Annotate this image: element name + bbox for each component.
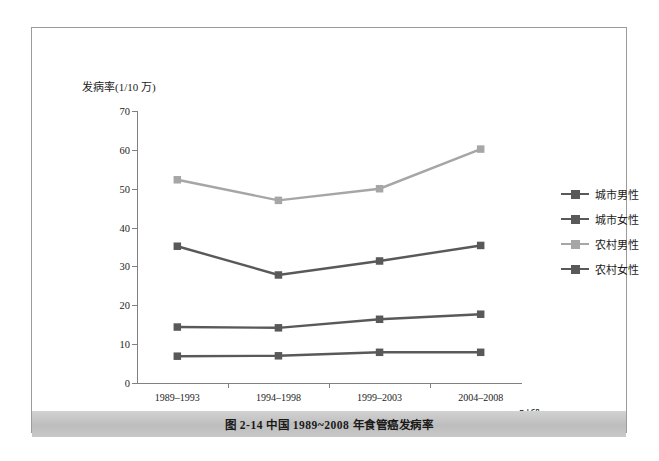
y-tick-label: 70 xyxy=(120,106,131,117)
legend-label: 农村女性 xyxy=(595,261,639,277)
y-axis-title: 发病率(1/10 万) xyxy=(82,78,156,94)
legend-item-0[interactable]: 城市男性 xyxy=(561,181,657,206)
plot-area: 010203040506070 1989–19931994–19981999–2… xyxy=(137,111,521,383)
data-point-marker xyxy=(376,316,384,324)
series-line xyxy=(177,245,480,275)
legend-item-1[interactable]: 城市女性 xyxy=(561,206,657,231)
data-point-marker xyxy=(376,257,384,265)
data-point-marker xyxy=(275,352,283,360)
y-tick-label: 60 xyxy=(120,144,131,155)
series-line xyxy=(177,352,480,356)
x-tick-label: 1999–2003 xyxy=(357,392,402,403)
data-point-marker xyxy=(275,271,283,279)
y-tick-label: 50 xyxy=(120,183,131,194)
x-tick-label: 1994–1998 xyxy=(256,392,301,403)
legend-label: 城市女性 xyxy=(595,211,639,227)
data-point-marker xyxy=(174,323,182,331)
figure-caption: 图 2-14 中国 1989~2008 年食管癌发病率 xyxy=(225,416,433,432)
data-point-marker xyxy=(477,145,485,153)
series-line xyxy=(177,314,480,328)
data-point-marker xyxy=(376,185,384,193)
data-point-marker xyxy=(275,197,283,205)
figure-frame: 发病率(1/10 万) 时段 010203040506070 1989–1993… xyxy=(31,27,627,433)
data-point-marker xyxy=(275,324,283,332)
legend-label: 城市男性 xyxy=(595,186,639,202)
y-tick-label: 0 xyxy=(125,378,130,389)
figure-caption-bar: 图 2-14 中国 1989~2008 年食管癌发病率 xyxy=(32,411,626,437)
legend-swatch-icon xyxy=(561,188,589,200)
x-tick xyxy=(430,383,431,388)
legend-item-3[interactable]: 农村女性 xyxy=(561,256,657,281)
legend-swatch-icon xyxy=(561,238,589,250)
legend-swatch-icon xyxy=(561,213,589,225)
y-tick-label: 30 xyxy=(120,261,131,272)
legend-item-2[interactable]: 农村男性 xyxy=(561,231,657,256)
x-tick xyxy=(228,383,229,388)
y-tick-label: 20 xyxy=(120,300,131,311)
data-point-marker xyxy=(477,349,485,357)
series-lines xyxy=(137,111,521,383)
data-point-marker xyxy=(174,352,182,360)
legend-label: 农村男性 xyxy=(595,236,639,252)
chart-legend: 城市男性城市女性农村男性农村女性 xyxy=(561,181,657,281)
legend-swatch-icon xyxy=(561,263,589,275)
x-tick xyxy=(329,383,330,388)
x-tick-label: 1989–1993 xyxy=(155,392,200,403)
y-tick xyxy=(132,383,137,384)
data-point-marker xyxy=(376,349,384,357)
series-line xyxy=(177,149,480,200)
y-tick-label: 40 xyxy=(120,222,131,233)
x-tick-label: 2004–2008 xyxy=(458,392,503,403)
data-point-marker xyxy=(174,242,182,250)
y-tick-label: 10 xyxy=(120,339,131,350)
data-point-marker xyxy=(477,242,485,250)
data-point-marker xyxy=(477,310,485,318)
data-point-marker xyxy=(174,176,182,184)
